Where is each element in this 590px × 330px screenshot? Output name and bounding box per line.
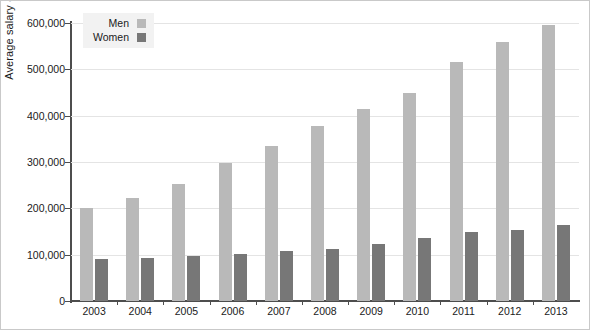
y-axis-tick-labels: 0100,000200,000300,000400,000500,000600,… (1, 23, 65, 301)
x-axis-tick-label: 2012 (498, 305, 521, 317)
bar-men-2005 (172, 184, 185, 301)
bar-group (71, 23, 117, 301)
y-axis-tick-label: 600,000 (3, 17, 65, 29)
y-axis-tick-mark (65, 162, 70, 163)
bar-group (440, 23, 486, 301)
bar-men-2012 (496, 42, 509, 301)
x-axis-tick-label: 2009 (359, 305, 382, 317)
x-axis-tick-labels: 2003200420052006200720082009201020112012… (71, 305, 579, 325)
bar-men-2013 (542, 25, 555, 301)
y-axis-tick-label: 100,000 (3, 249, 65, 261)
x-axis-tick-label: 2005 (175, 305, 198, 317)
bar-men-2010 (403, 93, 416, 302)
bar-women-2004 (141, 258, 154, 301)
x-axis-tick-label: 2008 (313, 305, 336, 317)
x-axis-tick-label: 2007 (267, 305, 290, 317)
y-axis-tick-label: 200,000 (3, 202, 65, 214)
bar-men-2003 (80, 208, 93, 301)
x-axis-tick-mark (487, 301, 488, 305)
y-axis-tick-label: 500,000 (3, 63, 65, 75)
bar-group (348, 23, 394, 301)
bar-women-2006 (234, 254, 247, 301)
legend-item-men[interactable]: Men (93, 17, 146, 29)
chart-legend: MenWomen (83, 13, 154, 48)
x-axis-tick-label: 2006 (221, 305, 244, 317)
x-axis-tick-mark (163, 301, 164, 305)
bar-group (394, 23, 440, 301)
legend-label: Women (93, 31, 129, 43)
y-axis-tick-mark (65, 301, 70, 302)
bar-men-2007 (265, 146, 278, 301)
bar-chart-figure: Average salary ($) 0100,000200,000300,00… (0, 0, 590, 330)
bar-group (487, 23, 533, 301)
bar-group (210, 23, 256, 301)
bar-women-2011 (465, 232, 478, 301)
bar-women-2013 (557, 225, 570, 301)
x-axis-tick-mark (394, 301, 395, 305)
bar-men-2006 (219, 163, 232, 301)
y-axis-tick-label: 400,000 (3, 110, 65, 122)
x-axis-tick-mark (348, 301, 349, 305)
bar-women-2009 (372, 244, 385, 301)
bar-men-2011 (450, 62, 463, 301)
bar-women-2007 (280, 251, 293, 301)
x-axis-tick-mark (117, 301, 118, 305)
x-axis-tick-mark (533, 301, 534, 305)
x-axis-tick-label: 2013 (544, 305, 567, 317)
x-axis-tick-mark (302, 301, 303, 305)
bar-group (533, 23, 579, 301)
bar-women-2003 (95, 259, 108, 301)
x-axis-tick-mark (210, 301, 211, 305)
y-axis-tick-mark (65, 116, 70, 117)
x-axis-tick-label: 2010 (406, 305, 429, 317)
y-axis-tick-mark (65, 208, 70, 209)
legend-swatch-men (137, 19, 146, 28)
y-axis-tick-mark (65, 69, 70, 70)
bar-group (163, 23, 209, 301)
bar-group (256, 23, 302, 301)
x-axis-tick-label: 2011 (452, 305, 475, 317)
x-axis-tick-label: 2004 (129, 305, 152, 317)
legend-item-women[interactable]: Women (93, 31, 146, 43)
legend-label: Men (109, 17, 129, 29)
y-axis-tick-mark (65, 255, 70, 256)
bar-women-2008 (326, 249, 339, 301)
bar-men-2008 (311, 126, 324, 301)
bar-men-2009 (357, 109, 370, 301)
bar-men-2004 (126, 198, 139, 301)
y-axis-tick-label: 0 (3, 295, 65, 307)
bar-women-2005 (187, 256, 200, 301)
plot-area (71, 23, 579, 301)
bar-group (117, 23, 163, 301)
x-axis-tick-mark (440, 301, 441, 305)
x-axis-tick-label: 2003 (82, 305, 105, 317)
x-axis-tick-mark (256, 301, 257, 305)
bar-women-2010 (418, 238, 431, 301)
bar-women-2012 (511, 230, 524, 301)
legend-swatch-women (137, 33, 146, 42)
y-axis-tick-label: 300,000 (3, 156, 65, 168)
y-axis-tick-mark (65, 23, 70, 24)
bar-group (302, 23, 348, 301)
